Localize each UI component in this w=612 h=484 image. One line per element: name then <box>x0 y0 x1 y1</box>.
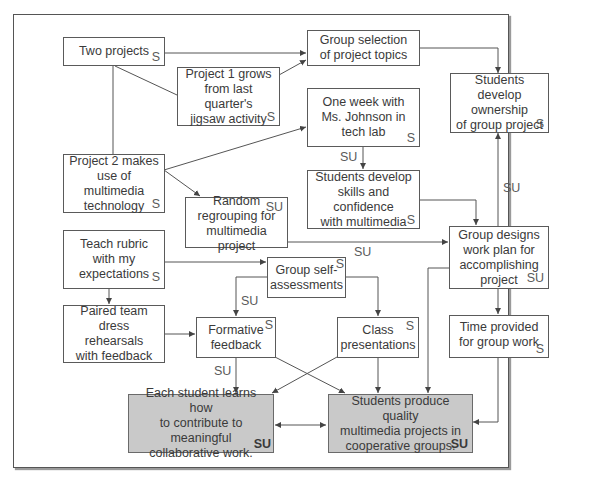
node-text: Teach rubric with my expectations <box>79 237 149 282</box>
node-tag: S <box>152 271 160 284</box>
node-tag: S <box>265 319 273 332</box>
node-paired-team: Paired team dress rehearsals with feedba… <box>63 305 165 363</box>
node-text: Project 2 makes use of multimedia techno… <box>68 154 160 214</box>
node-time-provided: Time provided for group work S <box>449 315 549 358</box>
node-text: Each student learns how to contribute to… <box>133 386 269 461</box>
node-quality-projects: Students produce quality multimedia proj… <box>328 394 473 453</box>
node-project1: Project 1 grows from last quarter's jigs… <box>177 67 280 126</box>
edge-label-oneweek-skills: SU <box>340 150 357 164</box>
node-ownership: Students develop ownership of group proj… <box>450 73 549 133</box>
node-text: Formative feedback <box>208 323 264 353</box>
node-text: Students develop ownership of group proj… <box>455 73 544 133</box>
node-teach-rubric: Teach rubric with my expectations S <box>63 230 165 289</box>
node-tag: S <box>336 258 344 271</box>
node-skills: Students develop skills and confidence w… <box>307 170 420 229</box>
node-tag: SU <box>266 201 283 214</box>
node-class-pres: Class presentations S <box>337 317 419 358</box>
edge-label-workplan-ownership: SU <box>503 181 520 195</box>
edge-label-selfassess-formative: SU <box>241 294 258 308</box>
node-each-student: Each student learns how to contribute to… <box>128 394 274 453</box>
node-text: Paired team dress rehearsals with feedba… <box>68 304 160 364</box>
node-tag: S <box>407 214 415 227</box>
node-tag: S <box>536 118 544 131</box>
node-group-selection: Group selection of project topics <box>307 30 420 66</box>
node-tag: SU <box>451 438 468 451</box>
node-text: Students develop skills and confidence w… <box>312 170 415 230</box>
node-tag: S <box>536 343 544 356</box>
edge-label-formative-each: SU <box>214 364 231 378</box>
node-tag: S <box>152 51 160 64</box>
node-text: Group self- assessments <box>270 263 343 293</box>
node-tag: S <box>152 198 160 211</box>
edge-label-regroup-workplan: SU <box>354 245 371 259</box>
node-text: One week with Ms. Johnson in tech lab <box>321 95 405 140</box>
node-tag: S <box>267 111 275 124</box>
node-text: Time provided for group work <box>459 320 539 354</box>
node-tag: SU <box>527 272 544 285</box>
node-text: Class presentations <box>340 323 415 353</box>
node-text: Project 1 grows from last quarter's jigs… <box>182 67 275 127</box>
node-formative: Formative feedback S <box>196 317 276 358</box>
node-text: Two projects <box>79 44 149 59</box>
node-tag: S <box>407 132 415 145</box>
node-one-week: One week with Ms. Johnson in tech lab S <box>307 88 420 147</box>
node-tag: S <box>406 320 414 333</box>
node-text: Group selection of project topics <box>320 33 408 63</box>
node-project2: Project 2 makes use of multimedia techno… <box>63 154 165 213</box>
node-work-plan: Group designs work plan for accomplishin… <box>449 226 549 289</box>
node-random-regroup: Random regrouping for multimedia project… <box>185 197 288 248</box>
node-tag: SU <box>254 438 271 451</box>
node-self-assess: Group self- assessments S <box>267 257 346 298</box>
node-two-projects: Two projects S <box>63 37 165 66</box>
node-text: Students produce quality multimedia proj… <box>333 394 468 454</box>
